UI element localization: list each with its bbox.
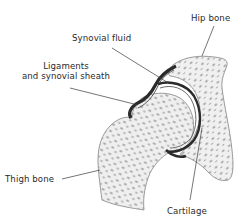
leader-thigh-bone <box>62 170 100 179</box>
label-thigh-bone: Thigh bone <box>5 174 54 184</box>
leader-hip-bone <box>202 26 214 56</box>
label-hip-bone: Hip bone <box>191 13 230 23</box>
hip-joint-diagram: Hip bone Synovial fluid Ligaments and sy… <box>0 0 243 222</box>
label-synovial-fluid: Synovial fluid <box>72 33 131 43</box>
label-ligaments-line2: and synovial sheath <box>16 71 116 81</box>
label-ligaments-line1: Ligaments <box>16 61 116 71</box>
leader-synovial-fluid <box>112 48 170 84</box>
label-cartilage: Cartilage <box>167 206 207 216</box>
leader-ligaments <box>70 88 138 105</box>
label-ligaments: Ligaments and synovial sheath <box>16 61 116 81</box>
